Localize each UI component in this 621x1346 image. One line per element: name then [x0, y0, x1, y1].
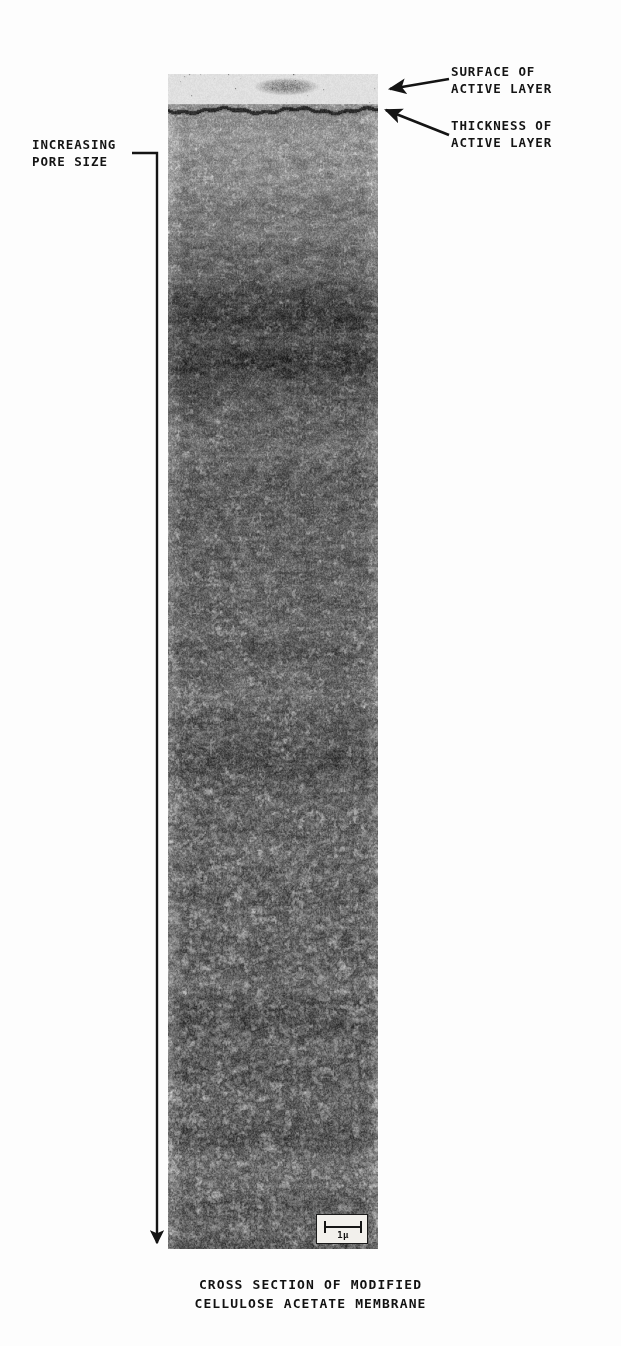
- caption-line-2: CELLULOSE ACETATE MEMBRANE: [194, 1296, 426, 1311]
- scale-bar-line: [324, 1226, 362, 1228]
- bracket-increasing-pore-size: [132, 153, 157, 1243]
- label-pore-size-line-1: INCREASING: [32, 137, 116, 152]
- label-increasing-pore-size: INCREASINGPORE SIZE: [32, 136, 116, 170]
- scale-bar: 1μ: [316, 1214, 368, 1244]
- micrograph-image: 1μ: [168, 74, 378, 1249]
- scale-bar-label: 1μ: [317, 1230, 369, 1240]
- label-thickness-of-active-layer: THICKNESS OFACTIVE LAYER: [451, 117, 552, 151]
- label-surface-line-2: ACTIVE LAYER: [451, 81, 552, 96]
- figure-caption: CROSS SECTION OF MODIFIEDCELLULOSE ACETA…: [0, 1275, 621, 1313]
- label-pore-size-line-2: PORE SIZE: [32, 154, 108, 169]
- label-surface-of-active-layer: SURFACE OFACTIVE LAYER: [451, 63, 552, 97]
- label-surface-line-1: SURFACE OF: [451, 64, 535, 79]
- label-thickness-line-1: THICKNESS OF: [451, 118, 552, 133]
- figure-root: 1μ SURFACE OFACTIVE LAYER THICKNESS OFAC…: [0, 0, 621, 1346]
- arrow-surface-active-layer: [390, 79, 449, 89]
- micrograph-canvas: [168, 74, 378, 1249]
- label-thickness-line-2: ACTIVE LAYER: [451, 135, 552, 150]
- caption-line-1: CROSS SECTION OF MODIFIED: [199, 1277, 422, 1292]
- arrow-thickness-active-layer: [386, 110, 449, 135]
